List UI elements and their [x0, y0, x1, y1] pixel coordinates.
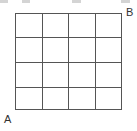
top-mark-4 [121, 0, 130, 3]
grid-hline [15, 13, 122, 14]
grid-hline [15, 37, 122, 38]
top-mark-1 [0, 0, 8, 3]
grid-4x4 [15, 13, 121, 110]
label-b: B [126, 7, 133, 18]
grid-hline [15, 62, 122, 63]
top-mark-2 [22, 0, 30, 3]
label-a: A [4, 114, 11, 125]
grid-hline [15, 109, 122, 110]
top-mark-3 [72, 0, 81, 3]
grid-hline [15, 87, 122, 88]
